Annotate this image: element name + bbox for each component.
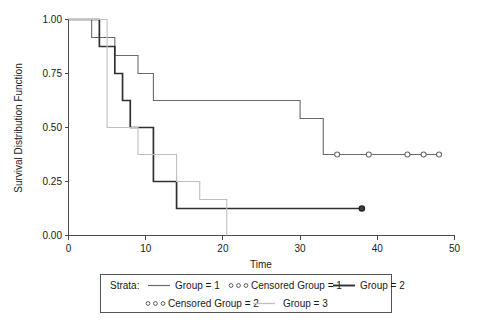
series-line-1 bbox=[69, 20, 440, 155]
censored-mark bbox=[421, 152, 426, 157]
y-axis-ticks bbox=[65, 20, 69, 236]
series-line-2 bbox=[69, 20, 362, 209]
censored-mark bbox=[335, 152, 340, 157]
y-tick-label: 1.00 bbox=[43, 14, 63, 25]
x-tick-label: 20 bbox=[217, 243, 229, 254]
legend-label-group-2: Group = 2 bbox=[360, 280, 405, 291]
x-axis-title: Time bbox=[250, 259, 272, 270]
x-axis-ticks bbox=[69, 236, 455, 240]
legend-label-group-3: Group = 3 bbox=[283, 298, 328, 309]
survival-plot-container: Survival Distribution Function 1.00 0.75… bbox=[0, 0, 481, 324]
censor-marks-layer bbox=[335, 152, 442, 211]
legend-label-group-1: Group = 1 bbox=[175, 280, 220, 291]
x-tick-label: 10 bbox=[140, 243, 152, 254]
series-layer bbox=[69, 20, 440, 236]
kaplan-meier-chart: Survival Distribution Function 1.00 0.75… bbox=[0, 0, 481, 324]
y-tick-label: 0.75 bbox=[43, 68, 63, 79]
legend-label-censored-group-2: Censored Group = 2 bbox=[168, 298, 259, 309]
censored-mark bbox=[359, 206, 364, 211]
y-tick-label: 0.00 bbox=[43, 230, 63, 241]
legend-circle-icon bbox=[154, 302, 158, 306]
y-tick-labels: 1.00 0.75 0.50 0.25 0.00 bbox=[43, 14, 63, 241]
legend-circle-icon bbox=[161, 302, 165, 306]
x-tick-labels: 0 10 20 30 40 50 bbox=[66, 243, 461, 254]
legend-circle-icon bbox=[229, 284, 233, 288]
x-tick-label: 50 bbox=[449, 243, 461, 254]
legend: Strata: Group = 1 Censored Group = 1 Gro… bbox=[101, 275, 406, 313]
x-tick-label: 40 bbox=[372, 243, 384, 254]
legend-prefix: Strata: bbox=[110, 280, 139, 291]
censored-mark bbox=[437, 152, 442, 157]
y-tick-label: 0.25 bbox=[43, 176, 63, 187]
x-tick-label: 30 bbox=[295, 243, 307, 254]
legend-circle-icon bbox=[146, 302, 150, 306]
y-tick-label: 0.50 bbox=[43, 122, 63, 133]
y-axis-title: Survival Distribution Function bbox=[13, 63, 24, 193]
x-tick-label: 0 bbox=[66, 243, 72, 254]
legend-circle-icon bbox=[244, 284, 248, 288]
censored-mark bbox=[405, 152, 410, 157]
legend-label-censored-group-1: Censored Group = 1 bbox=[251, 280, 342, 291]
censored-mark bbox=[366, 152, 371, 157]
legend-circle-icon bbox=[237, 284, 241, 288]
